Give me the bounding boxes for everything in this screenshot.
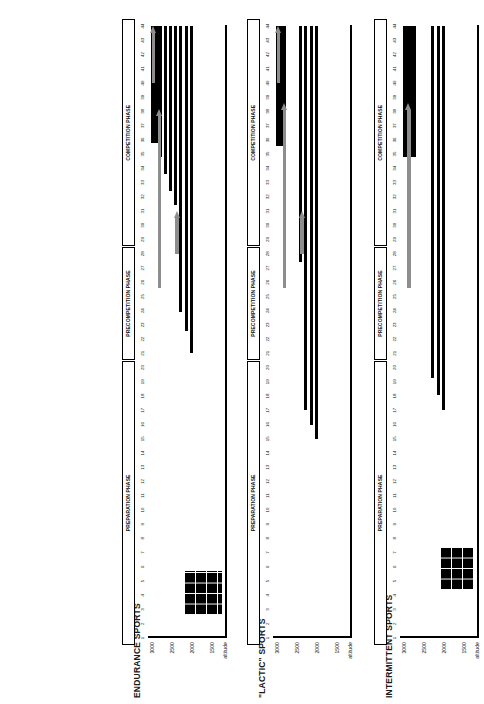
week-tick-label: 3 <box>137 603 148 617</box>
arrow-shaft <box>175 218 179 254</box>
week-tick-label: 6 <box>137 560 148 574</box>
week-tick-label: 10 <box>262 503 273 517</box>
week-tick-label: 33 <box>262 176 273 190</box>
week-axis-line <box>225 25 227 638</box>
week-tick-label: 31 <box>137 204 148 218</box>
week-tick-label: 39 <box>389 90 400 104</box>
week-tick-label: 32 <box>137 190 148 204</box>
week-tick-label: 38 <box>137 104 148 118</box>
week-tick-label: 36 <box>389 133 400 147</box>
week-tick-label: 29 <box>262 233 273 247</box>
altitude-camp-bar <box>190 26 193 353</box>
week-tick-label: 21 <box>389 346 400 360</box>
altitude-axis-labels: 3000250020001500altitude <box>400 640 478 704</box>
week-tick-label: 10 <box>389 503 400 517</box>
week-tick-label: 28 <box>262 247 273 261</box>
week-tick-label: 18 <box>137 389 148 403</box>
week-tick-label: 27 <box>262 261 273 275</box>
arrow-head-icon <box>281 103 287 110</box>
phase-bracket-row: PREPARATION PHASEPRECOMPETITION PHASECOM… <box>122 26 136 638</box>
week-tick-label: 30 <box>262 218 273 232</box>
week-tick-label: 37 <box>137 119 148 133</box>
week-tick-label: 15 <box>137 432 148 446</box>
week-tick-label: 22 <box>262 332 273 346</box>
week-tick-label: 20 <box>137 361 148 375</box>
week-tick-label: 4 <box>389 588 400 602</box>
phase-bracket: PREPARATION PHASE <box>247 361 260 645</box>
altitude-tick-label: 3000 <box>274 642 281 654</box>
week-tick-label: 34 <box>389 161 400 175</box>
altitude-tick-label: 1500 <box>209 642 216 654</box>
week-tick-label: 31 <box>389 204 400 218</box>
phase-label: PREPARATION PHASE <box>123 362 134 644</box>
altitude-axis-title: altitude <box>347 642 354 659</box>
week-tick-label: 37 <box>262 119 273 133</box>
week-tick-label: 32 <box>389 190 400 204</box>
week-tick-label: 26 <box>137 275 148 289</box>
week-tick-label: 33 <box>389 176 400 190</box>
arrow-shaft <box>300 218 304 254</box>
week-tick-label: 27 <box>389 261 400 275</box>
week-tick-label: 1 <box>137 631 148 645</box>
week-tick-label: 36 <box>137 133 148 147</box>
week-tick-label: 2 <box>137 617 148 631</box>
altitude-camp-bar <box>315 26 318 353</box>
altitude-camp-bar <box>169 26 172 64</box>
week-tick-label: 11 <box>389 489 400 503</box>
week-tick-label: 25 <box>262 289 273 303</box>
phase-label: PRECOMPETITION PHASE <box>123 248 134 360</box>
altitude-tick-label: 3000 <box>149 642 156 654</box>
week-tick-label: 40 <box>389 76 400 90</box>
altitude-tick-label: 3000 <box>401 642 408 654</box>
week-tick-label: 19 <box>262 375 273 389</box>
week-tick-label: 35 <box>137 147 148 161</box>
week-tick-label: 30 <box>137 218 148 232</box>
phase-bracket: COMPETITION PHASE <box>247 19 260 246</box>
week-tick-label: 6 <box>389 560 400 574</box>
altitude-tick-label: 1500 <box>334 642 341 654</box>
week-tick-label: 14 <box>137 446 148 460</box>
altitude-camp-bar <box>159 26 162 37</box>
arrow-shaft <box>277 33 281 83</box>
arrow-shaft <box>407 110 411 288</box>
altitude-tick-label: 2500 <box>294 642 301 654</box>
week-tick-label: 2 <box>389 617 400 631</box>
week-tick-label: 34 <box>137 161 148 175</box>
altitude-tick-label: 2000 <box>189 642 196 654</box>
week-tick-label: 40 <box>262 76 273 90</box>
week-tick-label: 31 <box>262 204 273 218</box>
phase-bracket: PREPARATION PHASE <box>122 361 135 645</box>
week-tick-label: 6 <box>262 560 273 574</box>
altitude-camp-bar <box>437 26 440 278</box>
phase-label: PRECOMPETITION PHASE <box>375 248 386 360</box>
chart-panel-intermittent: INTERMITTENT SPORTS PREPARATION PHASEPRE… <box>380 0 484 704</box>
phase-bracket: PRECOMPETITION PHASE <box>374 247 387 361</box>
week-tick-label: 44 <box>389 19 400 33</box>
week-tick-label: 12 <box>262 474 273 488</box>
week-tick-label: 2 <box>262 617 273 631</box>
plot-area <box>402 26 474 638</box>
phase-label: COMPETITION PHASE <box>248 20 259 245</box>
week-tick-label: 24 <box>389 304 400 318</box>
week-tick-label: 39 <box>262 90 273 104</box>
altitude-axis-title: altitude <box>222 642 229 659</box>
week-tick-label: 42 <box>137 47 148 61</box>
transition-arrow <box>156 109 163 288</box>
week-tick-label: 9 <box>137 517 148 531</box>
week-tick-label: 26 <box>262 275 273 289</box>
altitude-axis-labels: 3000250020001500altitude <box>148 640 226 704</box>
week-tick-label: 7 <box>137 546 148 560</box>
altitude-tick-label: 2500 <box>169 642 176 654</box>
week-tick-label: 35 <box>262 147 273 161</box>
arrow-head-icon <box>150 26 156 33</box>
week-tick-label: 39 <box>137 90 148 104</box>
week-tick-label: 19 <box>137 375 148 389</box>
week-tick-label: 19 <box>389 375 400 389</box>
hypoxic-chamber-block <box>184 571 222 615</box>
week-tick-label: 16 <box>137 418 148 432</box>
plot-area <box>150 26 222 638</box>
phase-bracket: COMPETITION PHASE <box>374 19 387 246</box>
altitude-axis-labels: 3000250020001500altitude <box>273 640 351 704</box>
altitude-tick-label: 2000 <box>314 642 321 654</box>
altitude-tick-label: 1500 <box>461 642 468 654</box>
